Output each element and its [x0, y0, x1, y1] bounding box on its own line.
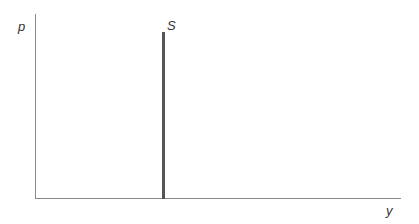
supply-curve	[162, 32, 165, 199]
x-axis-label: y	[386, 204, 393, 217]
supply-curve-label: S	[167, 19, 176, 32]
y-axis	[35, 14, 36, 199]
x-axis	[35, 198, 401, 199]
y-axis-label: p	[18, 20, 25, 33]
